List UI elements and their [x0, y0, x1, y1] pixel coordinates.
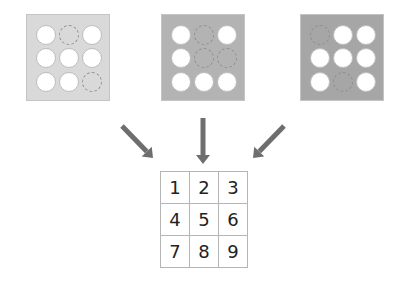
grid-cell-7: 7	[161, 236, 190, 268]
grid-cell-6: 6	[219, 204, 248, 236]
grid-row: 1 2 3	[161, 172, 248, 204]
grid-cell-9: 9	[219, 236, 248, 268]
arrow-center-down-icon	[196, 118, 210, 164]
grid-cell-8: 8	[190, 236, 219, 268]
grid-row: 7 8 9	[161, 236, 248, 268]
grid-cell-5: 5	[190, 204, 219, 236]
grid-cell-1: 1	[161, 172, 190, 204]
grid-cell-3: 3	[219, 172, 248, 204]
arrow-left-diagonal-icon	[122, 126, 153, 158]
grid-cell-4: 4	[161, 204, 190, 236]
number-grid: 1 2 3 4 5 6 7 8 9	[160, 171, 248, 268]
arrow-right-diagonal-icon	[253, 126, 284, 158]
grid-cell-2: 2	[190, 172, 219, 204]
grid-row: 4 5 6	[161, 204, 248, 236]
